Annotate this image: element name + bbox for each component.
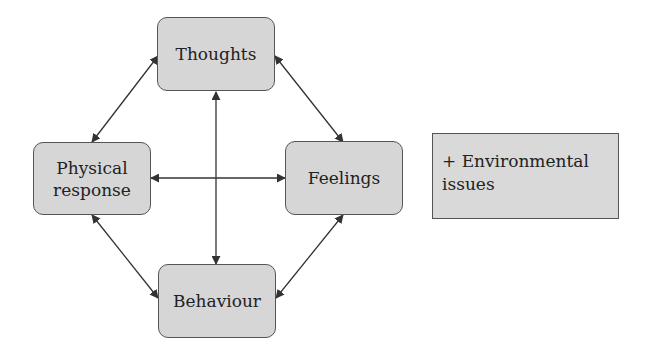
node-physical-line2: response — [53, 180, 131, 200]
node-physical-line1: Physical — [56, 158, 127, 178]
node-feelings-label: Feelings — [308, 167, 380, 189]
environmental-issues-note: + Environmental issues — [432, 133, 619, 219]
edge-feelings-behaviour — [276, 215, 343, 298]
node-feelings: Feelings — [285, 141, 403, 215]
node-behaviour-label: Behaviour — [173, 290, 261, 312]
env-note-line2: issues — [442, 174, 495, 194]
node-physical-response: Physical response — [33, 142, 151, 215]
node-physical-response-label: Physical response — [53, 157, 131, 201]
node-thoughts: Thoughts — [157, 17, 275, 91]
edge-thoughts-physical — [92, 56, 158, 142]
edge-physical-behaviour — [92, 215, 158, 298]
edge-thoughts-feelings — [275, 56, 343, 142]
node-thoughts-label: Thoughts — [176, 43, 257, 65]
node-behaviour: Behaviour — [158, 264, 276, 338]
env-note-line1: + Environmental — [442, 151, 589, 171]
